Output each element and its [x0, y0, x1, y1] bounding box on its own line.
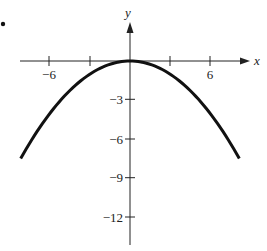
y-tick-label: −3 — [109, 92, 123, 107]
y-axis: −3 −6 −9 −12 y — [103, 5, 135, 245]
y-tick-label: −6 — [109, 132, 123, 147]
x-axis-arrow-icon — [240, 58, 250, 65]
y-axis-arrow-icon — [127, 22, 134, 33]
x-axis: −6 6 x — [20, 53, 260, 82]
y-tick-label: −12 — [103, 210, 123, 225]
parabola-chart: −6 6 x −3 −6 −9 −12 y — [0, 0, 267, 251]
x-tick-label: −6 — [42, 67, 56, 82]
x-tick-label: 6 — [207, 67, 214, 82]
y-tick-label: −9 — [109, 170, 123, 185]
x-axis-label: x — [253, 53, 260, 68]
bullet-dot — [1, 22, 5, 26]
y-axis-label: y — [123, 5, 131, 20]
